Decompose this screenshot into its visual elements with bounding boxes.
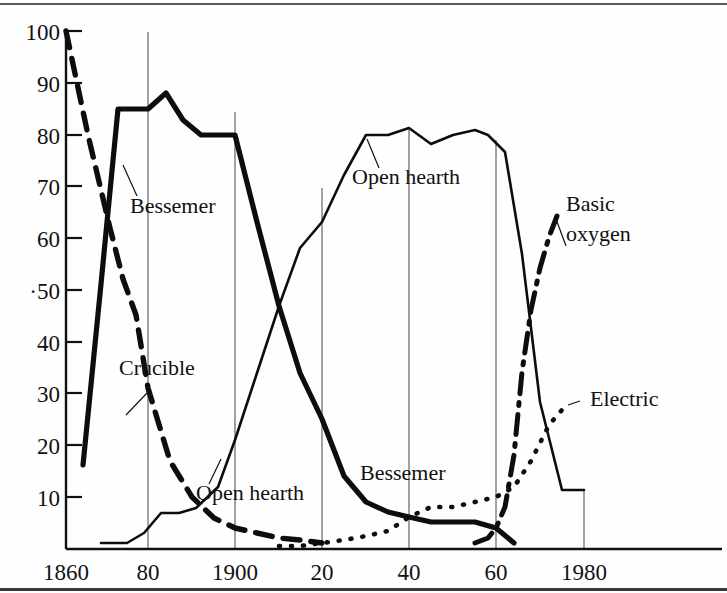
y-tick-label-30: 30 (37, 382, 60, 407)
leader-line-bessemer-early (123, 165, 137, 196)
annotation-open-hearth-late: Open hearth (352, 164, 460, 189)
steel-process-share-line-chart: 100 90 80 70 60 ·50 40 30 20 10 1860 80 … (0, 0, 727, 593)
x-tick-label-1940: 40 (398, 560, 421, 585)
x-tick-label-1960: 60 (485, 560, 508, 585)
annotation-bessemer-early: Bessemer (130, 193, 216, 218)
y-tick-label-10: 10 (37, 486, 60, 511)
x-tick-label-1980: 1980 (561, 560, 607, 585)
y-tick-label-60: 60 (37, 227, 60, 252)
chart-figure: 100 90 80 70 60 ·50 40 30 20 10 1860 80 … (0, 0, 727, 593)
y-tick-label-90: 90 (37, 72, 60, 97)
series-annotations: Bessemer Crucible Open hearth Open heart… (119, 164, 659, 505)
x-tick-label-1880: 80 (137, 560, 160, 585)
y-tick-label-80: 80 (37, 124, 60, 149)
x-tick-label-1860: 1860 (43, 560, 89, 585)
y-tick-label-20: 20 (37, 434, 60, 459)
x-axis-tick-labels: 1860 80 1900 20 40 60 1980 (43, 560, 607, 585)
x-tick-label-1900: 1900 (212, 560, 258, 585)
leader-line-electric (568, 401, 580, 405)
y-tick-label-70: 70 (37, 175, 60, 200)
y-tick-label-40: 40 (37, 331, 60, 356)
annotation-electric: Electric (590, 386, 659, 411)
annotation-bessemer-late: Bessemer (360, 460, 446, 485)
leader-line-crucible (126, 392, 148, 415)
y-tick-label-50: ·50 (29, 279, 60, 304)
annotation-basic-oxygen-l2: oxygen (566, 221, 631, 246)
annotation-open-hearth-early: Open hearth (196, 480, 304, 505)
annotation-crucible: Crucible (119, 355, 195, 380)
series-line-basic-oxygen (475, 216, 557, 543)
annotation-basic-oxygen-l1: Basic (566, 191, 615, 216)
series-line-crucible (66, 31, 322, 543)
series-curves (66, 31, 584, 546)
x-tick-label-1920: 20 (311, 560, 334, 585)
y-tick-label-100: 100 (26, 20, 61, 45)
leader-line-basic-oxygen (556, 219, 566, 246)
y-axis-tick-labels: 100 90 80 70 60 ·50 40 30 20 10 (26, 20, 61, 511)
series-line-open-hearth (101, 128, 584, 543)
